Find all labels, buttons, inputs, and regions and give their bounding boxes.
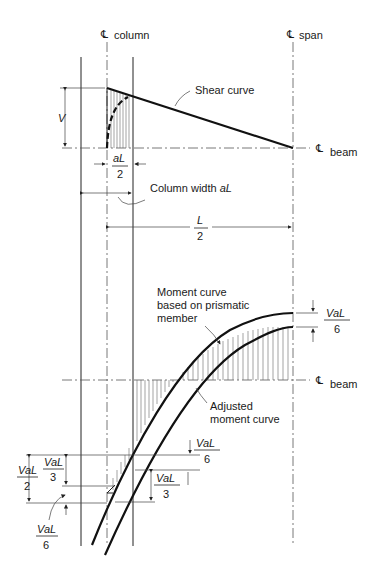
shear-curve-line xyxy=(107,88,293,148)
al-over-2-num: aL xyxy=(113,152,125,164)
cl-column-label: column xyxy=(114,29,149,41)
moment-hatch xyxy=(113,327,288,490)
adjusted-shear-dashed xyxy=(107,97,128,148)
moment-curve-label-1: Moment curve xyxy=(157,286,227,298)
cl-span-symbol: ℄ xyxy=(286,28,294,40)
cl-beam-symbol-bottom: ℄ xyxy=(315,374,323,386)
cl-span-label: span xyxy=(299,29,323,41)
cl-beam-label-top: beam xyxy=(330,146,358,158)
left-val6-leader xyxy=(49,495,65,520)
moment-curve-label-2: based on prismatic xyxy=(157,299,250,311)
cl-column-symbol: ℄ xyxy=(100,28,108,40)
adjusted-leader xyxy=(196,388,207,403)
moment-curve-label-3: member xyxy=(157,312,198,324)
v-label: V xyxy=(58,112,67,124)
column-width-leader xyxy=(118,197,145,204)
left-val3-num: VaL xyxy=(44,456,63,468)
left-val6-num: VaL xyxy=(37,523,56,535)
shear-curve-leader xyxy=(175,91,190,106)
left-val2-den: 2 xyxy=(24,480,30,492)
col-val3-den: 3 xyxy=(163,488,169,500)
left-val6-den: 6 xyxy=(43,539,49,551)
span-val-den: 6 xyxy=(334,323,340,335)
l-over-2-num: L xyxy=(197,214,203,226)
moment-curve-leader xyxy=(205,326,220,344)
adjusted-label-2: moment curve xyxy=(210,413,280,425)
cl-beam-label-bottom: beam xyxy=(330,378,358,390)
column-width-label: Column width aL xyxy=(150,182,232,194)
col-val3-num: VaL xyxy=(156,472,175,484)
al-over-2-den: 2 xyxy=(117,168,123,180)
col-val6-num: VaL xyxy=(196,437,215,449)
adjusted-label-1: Adjusted xyxy=(210,400,253,412)
left-val3-den: 3 xyxy=(50,471,56,483)
l-over-2-den: 2 xyxy=(197,230,203,242)
shear-moment-diagram: ℄ column ℄ span ℄ beam V Shear curve aL … xyxy=(0,0,381,572)
left-val2-num: VaL xyxy=(18,464,37,476)
shear-curve-label: Shear curve xyxy=(195,84,254,96)
col-val6-den: 6 xyxy=(204,453,210,465)
cl-beam-symbol-top: ℄ xyxy=(315,142,323,154)
span-val-num: VaL xyxy=(326,307,345,319)
